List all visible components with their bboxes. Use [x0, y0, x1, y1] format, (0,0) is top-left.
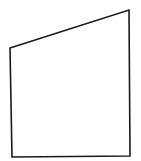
diagram-canvas	[0, 0, 141, 161]
quadrilateral-shape	[10, 10, 130, 157]
